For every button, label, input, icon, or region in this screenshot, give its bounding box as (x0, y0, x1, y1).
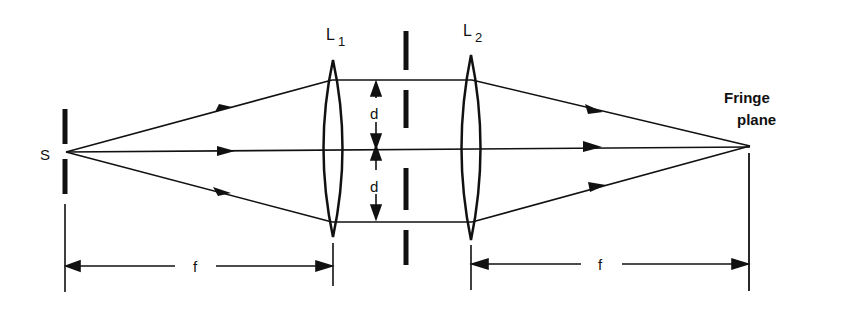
source-label: S (40, 146, 50, 163)
collimated-rays (332, 80, 472, 222)
focal-left-label: f (193, 258, 198, 275)
converging-rays (472, 80, 750, 222)
lens2-subscript: 2 (475, 30, 482, 45)
focal-length-left-dimension (66, 261, 332, 271)
fringe-plane-label-line2: plane (737, 111, 776, 128)
lens-l1 (324, 60, 343, 237)
slit-sep-top-label: d (370, 105, 378, 122)
slit-sep-bottom-label: d (370, 178, 378, 195)
lens1-label: L (326, 26, 335, 43)
focal-right-label: f (598, 256, 603, 273)
lens1-subscript: 1 (338, 34, 345, 49)
fringe-plane-label-line1: Fringe (724, 89, 770, 106)
lens2-label: L (463, 22, 472, 39)
optics-diagram: S L 1 d d L 2 (0, 0, 860, 315)
lens-l2 (462, 55, 481, 240)
focal-length-right-dimension (472, 259, 748, 269)
